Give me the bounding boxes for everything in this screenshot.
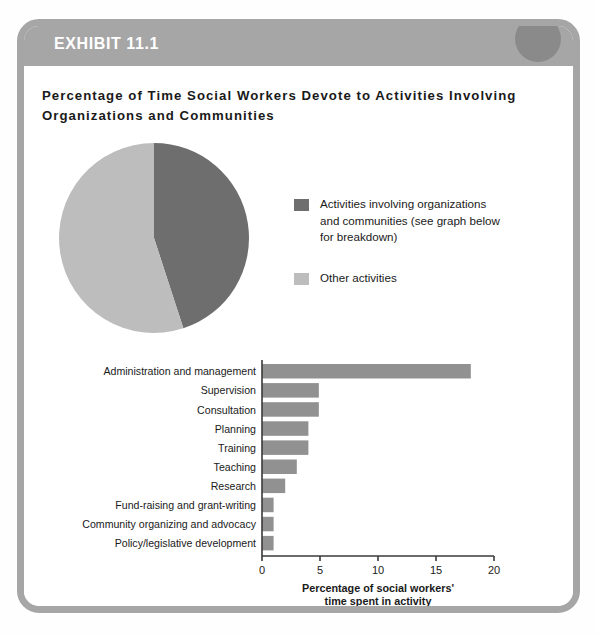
- exhibit-number-label: EXHIBIT 11.1: [54, 35, 159, 53]
- x-axis-tick-label: 15: [430, 564, 442, 576]
- bar-category-label: Training: [218, 442, 256, 454]
- bar-category-label: Policy/legislative development: [115, 537, 256, 549]
- bar-rect: [262, 440, 308, 455]
- bar-category-labels: Administration and managementSupervision…: [82, 365, 256, 549]
- x-axis-tick-label: 0: [259, 564, 265, 576]
- legend-label-line: Activities involving organizations: [320, 196, 500, 213]
- exhibit-header-band: EXHIBIT 11.1: [24, 26, 573, 66]
- legend-item-1: Activities involving organizationsand co…: [294, 196, 554, 246]
- bar-rect: [262, 536, 274, 551]
- bar-chart-svg: Administration and managementSupervision…: [24, 358, 580, 613]
- bar-rect: [262, 460, 297, 475]
- legend-item-label: Activities involving organizationsand co…: [320, 196, 500, 246]
- bar-category-label: Consultation: [197, 404, 256, 416]
- x-axis-tick-label: 5: [317, 564, 323, 576]
- legend-item-2: Other activities: [294, 270, 554, 287]
- bar-rect: [262, 402, 319, 417]
- bar-rect: [262, 383, 319, 398]
- x-axis-tick-label: 20: [488, 564, 500, 576]
- bar-rect: [262, 498, 274, 513]
- bar-category-label: Research: [211, 480, 256, 492]
- legend-label-line: for breakdown): [320, 229, 500, 246]
- pie-chart: [58, 142, 250, 334]
- bar-tick-labels: 05101520: [259, 564, 500, 576]
- bar-category-label: Teaching: [214, 461, 257, 473]
- bar-category-label: Fund-raising and grant-writing: [115, 499, 256, 511]
- legend-swatch-icon: [294, 273, 309, 285]
- legend-swatch-icon: [294, 199, 309, 211]
- exhibit-title: Percentage of Time Social Workers Devote…: [42, 86, 547, 127]
- bar-category-label: Administration and management: [103, 365, 256, 377]
- bar-category-label: Planning: [215, 423, 256, 435]
- header-circle-ornament: [515, 19, 561, 62]
- bar-axis-title: Percentage of social workers'time spent …: [302, 582, 454, 607]
- bar-rect: [262, 421, 308, 436]
- bar-rect: [262, 364, 471, 379]
- bar-rect: [262, 517, 274, 532]
- x-axis-title-line: Percentage of social workers': [302, 582, 454, 594]
- pie-slices: [59, 143, 249, 333]
- pie-legend: Activities involving organizationsand co…: [294, 196, 554, 310]
- exhibit-content: Percentage of Time Social Workers Devote…: [24, 66, 573, 613]
- bar-category-label: Supervision: [201, 384, 256, 396]
- bar-chart: Administration and managementSupervision…: [24, 358, 573, 613]
- x-axis-tick-label: 10: [372, 564, 384, 576]
- legend-item-label: Other activities: [320, 270, 397, 287]
- scanned-page: EXHIBIT 11.1 Percentage of Time Social W…: [0, 0, 597, 635]
- bar-category-label: Community organizing and advocacy: [82, 518, 256, 530]
- bar-rects: [262, 364, 471, 550]
- pie-chart-svg: [58, 142, 250, 334]
- bar-rect: [262, 479, 285, 494]
- x-axis-title-line: time spent in activity: [325, 595, 432, 607]
- legend-label-line: Other activities: [320, 270, 397, 287]
- exhibit-frame: EXHIBIT 11.1 Percentage of Time Social W…: [17, 19, 580, 613]
- legend-label-line: and communities (see graph below: [320, 213, 500, 230]
